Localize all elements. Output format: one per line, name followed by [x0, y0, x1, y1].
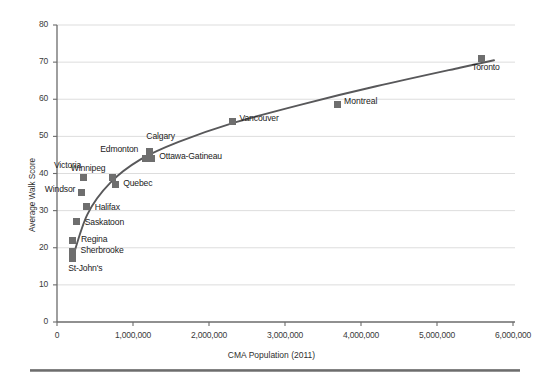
data-point-marker	[112, 181, 119, 188]
x-axis-tick-label: 1,000,000	[103, 330, 163, 340]
data-point-label: Sherbrooke	[81, 245, 124, 255]
data-point-label: Windsor	[0, 184, 75, 194]
data-point-label: Vancouver	[240, 113, 279, 123]
legend-label: Montreal	[344, 96, 377, 106]
x-axis-title: CMA Population (2011)	[0, 350, 543, 360]
data-point-label: Saskatoon	[85, 217, 124, 227]
walk-score-scatter-chart: Average Walk Score CMA Population (2011)…	[0, 0, 543, 384]
data-point-label: Edmonton	[0, 144, 138, 154]
data-point-marker	[83, 203, 90, 210]
x-axis-tick-label: 3,000,000	[255, 330, 315, 340]
data-point-marker	[229, 118, 236, 125]
y-axis-tick-label: 0	[26, 316, 48, 326]
data-point-marker	[78, 189, 85, 196]
y-axis-tick-label: 50	[26, 130, 48, 140]
data-point-marker	[146, 148, 153, 155]
x-axis-tick-label: 2,000,000	[179, 330, 239, 340]
data-point-marker	[69, 237, 76, 244]
data-point-marker	[142, 155, 149, 162]
data-point-label: Ottawa-Gatineau	[159, 151, 222, 161]
x-axis-tick-label: 0	[27, 330, 87, 340]
y-axis-tick-label: 80	[26, 19, 48, 29]
data-point-label: Quebec	[123, 178, 152, 188]
x-axis-tick-label: 4,000,000	[331, 330, 391, 340]
data-point-marker	[69, 255, 76, 262]
y-axis-tick-label: 10	[26, 279, 48, 289]
data-point-marker	[148, 155, 155, 162]
y-axis-tick-label: 60	[26, 93, 48, 103]
trend-line	[72, 60, 494, 260]
y-axis-tick-label: 70	[26, 56, 48, 66]
data-point-marker	[478, 55, 485, 62]
data-point-marker	[109, 174, 116, 181]
data-point-label: St-John's	[68, 263, 102, 273]
bottom-divider-rule	[30, 369, 520, 372]
legend-marker	[334, 101, 341, 108]
data-point-label: Toronto	[472, 62, 500, 72]
data-point-label: Victoria	[0, 160, 81, 170]
x-axis-tick-label: 5,000,000	[407, 330, 467, 340]
data-point-label: Regina	[81, 234, 107, 244]
y-axis-tick-label: 20	[26, 242, 48, 252]
x-axis-tick-label: 6,000,000	[483, 330, 543, 340]
data-point-marker	[80, 174, 87, 181]
data-point-marker	[69, 248, 76, 255]
data-point-marker	[73, 218, 80, 225]
data-point-label: Halifax	[95, 202, 120, 212]
data-point-label: Calgary	[146, 131, 175, 141]
y-axis-tick-label: 30	[26, 205, 48, 215]
